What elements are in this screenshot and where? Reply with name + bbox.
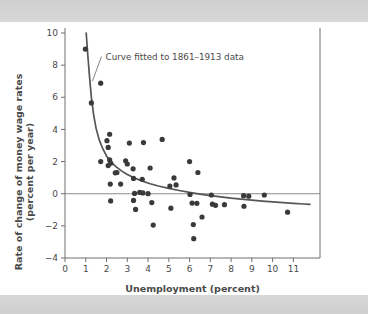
data-point: [89, 100, 94, 105]
data-point: [108, 161, 113, 166]
data-point: [241, 204, 246, 209]
bottom-gray-band: [0, 295, 368, 314]
scatter-points: [83, 46, 290, 241]
data-point: [118, 181, 123, 186]
y-tick-label: −4: [45, 253, 59, 263]
data-point: [191, 236, 196, 241]
data-point: [199, 214, 204, 219]
figure-canvas: Rate of change of money wage rates (perc…: [0, 0, 368, 314]
data-point: [145, 191, 150, 196]
data-point: [127, 140, 132, 145]
annotation-label: Curve fitted to 1861–1913 data: [105, 52, 243, 62]
data-point: [167, 183, 172, 188]
data-point: [104, 138, 109, 143]
y-tick-label: 2: [52, 157, 58, 167]
curve-annotation: Curve fitted to 1861–1913 data: [92, 52, 243, 82]
data-point: [107, 132, 112, 137]
data-point: [98, 159, 103, 164]
data-point: [108, 198, 113, 203]
y-tick-label: 6: [52, 92, 58, 102]
data-point: [171, 175, 176, 180]
x-tick-label: 5: [166, 264, 172, 274]
data-point: [187, 159, 192, 164]
data-point: [160, 137, 165, 142]
data-point: [187, 192, 192, 197]
data-point: [151, 222, 156, 227]
data-point: [132, 191, 137, 196]
annotation-leader-line: [92, 57, 101, 82]
data-point: [195, 170, 200, 175]
y-axis-ticks: −4−20246810: [45, 28, 65, 263]
data-point: [131, 198, 136, 203]
top-gray-band: [0, 0, 368, 22]
data-point: [149, 200, 154, 205]
data-point: [125, 161, 130, 166]
data-point: [246, 194, 251, 199]
data-point: [241, 193, 246, 198]
y-tick-label: 8: [52, 60, 58, 70]
data-point: [140, 177, 145, 182]
data-point: [148, 165, 153, 170]
y-tick-label: 0: [52, 189, 58, 199]
x-tick-label: 2: [104, 264, 110, 274]
data-point: [83, 46, 88, 51]
data-point: [213, 203, 218, 208]
x-axis-title: Unemployment (percent): [125, 283, 260, 294]
y-axis-title-line1: Rate of change of money wage rates: [13, 73, 24, 270]
x-tick-label: 1: [83, 264, 89, 274]
x-tick-label: 0: [62, 264, 68, 274]
y-tick-label: 4: [52, 125, 58, 135]
data-point: [140, 190, 145, 195]
x-tick-label: 10: [267, 264, 279, 274]
data-point: [262, 192, 267, 197]
x-tick-label: 8: [228, 264, 234, 274]
x-tick-label: 4: [145, 264, 151, 274]
data-point: [131, 176, 136, 181]
y-tick-label: −2: [45, 221, 58, 231]
phillips-curve-chart: Rate of change of money wage rates (perc…: [0, 22, 368, 295]
data-point: [106, 145, 111, 150]
x-tick-label: 6: [187, 264, 193, 274]
y-axis-title: Rate of change of money wage rates (perc…: [13, 73, 35, 270]
data-point: [285, 210, 290, 215]
data-point: [173, 182, 178, 187]
data-point: [114, 170, 119, 175]
x-tick-label: 7: [207, 264, 213, 274]
x-tick-label: 11: [288, 264, 299, 274]
data-point: [209, 192, 214, 197]
data-point: [108, 181, 113, 186]
data-point: [189, 200, 194, 205]
data-point: [141, 140, 146, 145]
data-point: [194, 201, 199, 206]
data-point: [133, 207, 138, 212]
data-point: [98, 81, 103, 86]
y-tick-label: 10: [47, 28, 59, 38]
data-point: [168, 206, 173, 211]
data-point: [131, 166, 136, 171]
x-tick-label: 3: [124, 264, 130, 274]
data-point: [222, 202, 227, 207]
y-axis-title-line2: (percent per year): [24, 123, 35, 221]
x-axis-ticks: 01234567891011: [62, 258, 299, 274]
chart-svg: Rate of change of money wage rates (perc…: [0, 22, 368, 295]
x-tick-label: 9: [249, 264, 255, 274]
data-point: [191, 222, 196, 227]
